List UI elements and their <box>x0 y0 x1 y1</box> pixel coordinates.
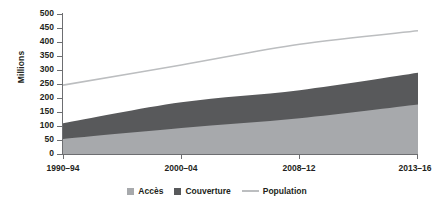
x-tick-2013-16 <box>417 155 418 159</box>
y-axis-line <box>62 13 63 155</box>
line-swatch-icon <box>242 190 259 192</box>
y-tick-label-350: 350 <box>24 51 54 60</box>
x-axis-line <box>62 154 418 155</box>
plot-area <box>63 14 418 154</box>
legend-label-acces: Accès <box>138 186 163 196</box>
y-tick-label-400: 400 <box>24 37 54 46</box>
series-svg <box>63 14 418 154</box>
legend-item-couverture[interactable]: Couverture <box>174 186 230 196</box>
y-tick-label-150: 150 <box>24 107 54 116</box>
x-tick-2000-04 <box>181 155 182 159</box>
y-tick-label-200: 200 <box>24 93 54 102</box>
square-swatch-icon <box>127 188 134 195</box>
legend-label-population: Population <box>263 186 307 196</box>
y-tick-label-450: 450 <box>24 23 54 32</box>
square-swatch-icon <box>174 188 181 195</box>
y-tick-label-0: 0 <box>24 149 54 158</box>
chart-legend: Accès Couverture Population <box>0 186 434 196</box>
y-tick-label-50: 50 <box>24 135 54 144</box>
y-tick-label-500: 500 <box>24 9 54 18</box>
y-tick-label-100: 100 <box>24 121 54 130</box>
x-tick-label-2008-12: 2008–12 <box>269 163 329 173</box>
line-population <box>63 31 418 85</box>
x-tick-label-1990-94: 1990–94 <box>33 163 93 173</box>
y-tick-label-250: 250 <box>24 79 54 88</box>
x-tick-label-2000-04: 2000–04 <box>151 163 211 173</box>
x-tick-1990-94 <box>63 155 64 159</box>
legend-item-population[interactable]: Population <box>242 186 307 196</box>
y-tick-label-300: 300 <box>24 65 54 74</box>
chart-container: Millions 500 450 400 350 300 250 200 150… <box>0 0 434 212</box>
x-tick-2008-12 <box>299 155 300 159</box>
legend-label-couverture: Couverture <box>185 186 230 196</box>
legend-item-acces[interactable]: Accès <box>127 186 163 196</box>
x-tick-label-2013-16: 2013–16 <box>385 163 434 173</box>
